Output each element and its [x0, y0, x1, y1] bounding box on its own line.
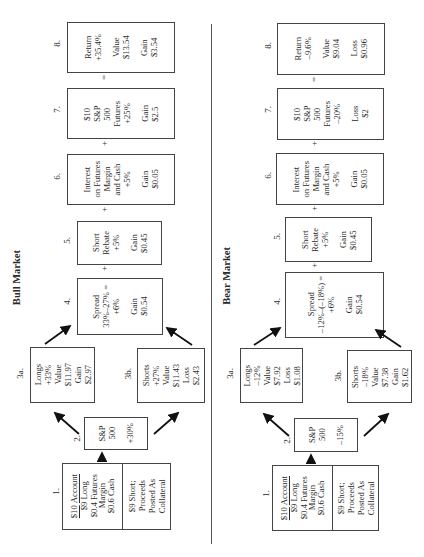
bear-step1-line: $9 Long: [289, 476, 299, 520]
arrow-icon: [167, 328, 192, 345]
bear-step3a-line: Value: [262, 365, 272, 386]
bear-step8-box: Return –9.6% Value $9.04 Loss $0.96: [277, 23, 385, 75]
bull-step3a-label: 3a.: [15, 368, 25, 379]
bear-step4-line: $0.54: [354, 276, 364, 333]
bear-step3a-line: Longs: [242, 365, 252, 386]
bear-step8-line: $0.96: [359, 37, 369, 60]
bull-step3a-line: Gain: [73, 363, 83, 386]
arrow-icon: [154, 413, 178, 434]
bear-step4-line: Spread: [306, 276, 316, 333]
bull-step1-line: $9 Short;: [127, 479, 137, 513]
bear-step5-box: Short Rebate +5% Gain $0.45: [285, 217, 372, 262]
bull-step3b-line: +27%: [151, 364, 161, 387]
bull-step2-box: S&P 500 +30%: [84, 417, 148, 450]
bull-step2-change: +30%: [125, 423, 135, 444]
bear-step3b-label: 3b.: [333, 370, 343, 381]
bull-step5-line: $0.45: [139, 231, 149, 255]
bull-step1-line: Proceeds: [137, 479, 147, 513]
bull-step3a-line: +33%: [43, 363, 53, 386]
bear-step4-line: +6%: [326, 276, 336, 333]
bull-step3a-line: Longs: [33, 363, 43, 386]
bear-step6-line: +5%: [331, 161, 341, 198]
bear-step3b-line: $7.38: [380, 366, 390, 388]
bull-step3a-line: Value: [53, 363, 63, 386]
bull-step3a-line: $2.97: [83, 363, 93, 386]
bear-plus-sign: +: [309, 263, 319, 268]
bear-step3a-line: –12%: [252, 365, 262, 386]
bear-step5-line: Short: [300, 228, 310, 252]
bear-plus-sign: +: [309, 206, 319, 211]
bear-step6-line: Margin: [311, 161, 321, 198]
bear-step7-line: $10: [292, 101, 302, 127]
bull-step3b-box: Shorts +27% Value $11.43 Loss $2.43: [137, 348, 205, 403]
bear-step6-line: Gain: [349, 161, 359, 198]
bull-step5-line: +5%: [111, 231, 121, 255]
bear-step6-line: and Cash: [321, 161, 331, 198]
bear-step7-line: –20%: [332, 101, 342, 127]
bull-step1-line: Posted As: [147, 479, 157, 513]
account-word: Account: [69, 474, 79, 503]
bull-step4-box: Spread 33%–27% = +6% Gain $0.54: [77, 278, 163, 335]
bear-step7-label: 7.: [263, 106, 273, 113]
bear-step3a-box: Longs –12% Value $7.92 Loss $1.08: [240, 348, 303, 403]
bull-step6-line: +5%: [122, 161, 132, 198]
bull-step1-line: Collateral: [157, 479, 167, 513]
bull-step4-line: Spread: [91, 285, 101, 328]
bear-step5-line: Rebate: [310, 228, 320, 252]
bull-step8-label: 8.: [52, 40, 62, 47]
bull-step7-line: $10: [82, 101, 92, 127]
bull-market-title: Bull Market: [11, 250, 22, 305]
bear-step3b-box: Shorts –18% Value $7.38 Gain $1.62: [347, 350, 412, 403]
bull-step6-line: $0.05: [150, 161, 160, 198]
bear-step2-line: S&P: [307, 425, 317, 445]
bear-step2-change: –15%: [335, 425, 345, 445]
bear-market-title: Bear Market: [221, 247, 232, 305]
bear-step3b-line: $1.62: [400, 366, 410, 388]
bear-step1-line: Collateral: [366, 481, 376, 515]
bear-step1-label: 1.: [261, 490, 271, 497]
bear-step1-line: $0.6 Cash: [316, 476, 326, 520]
bear-step5-line: $0.45: [348, 228, 358, 252]
account-amount: $10: [69, 506, 79, 519]
bear-step3a-line: $7.92: [272, 365, 282, 386]
bull-step8-line: $3.54: [149, 34, 159, 61]
bear-step8-line: Return: [293, 37, 303, 60]
arrow-icon: [254, 328, 280, 345]
bear-step5-label: 5.: [272, 233, 282, 240]
bull-step8-line: Gain: [139, 34, 149, 61]
bull-step7-line: Gain: [140, 101, 150, 127]
bull-step3b-line: $11.43: [171, 364, 181, 387]
bear-step1-line: $9 Short;: [336, 481, 346, 515]
bull-step6-line: on Futures: [92, 161, 102, 198]
bear-step5-line: +5%: [320, 228, 330, 252]
bear-step3b-line: Gain: [390, 366, 400, 388]
bear-step1-box: $10 Account $9 Long $0.4 Futures Margin …: [272, 465, 379, 531]
bull-plus-sign: +: [99, 266, 109, 271]
bull-step7-line: S&P: [92, 101, 102, 127]
account-word: Account: [279, 476, 289, 505]
bull-step3b-line: $2.43: [191, 364, 201, 387]
bear-step7-line: Loss: [350, 101, 360, 127]
bear-step6-box: Interest on Futures Margin and Cash +5% …: [276, 153, 384, 205]
bear-step1-line: Posted As: [356, 481, 366, 515]
bear-step8-line: –9.6%: [303, 37, 313, 60]
bull-step5-line: Rebate: [101, 231, 111, 255]
bear-step3b-line: Shorts: [350, 366, 360, 388]
bull-step7-line: Futures: [112, 101, 122, 127]
bear-step3a-line: $1.08: [292, 365, 302, 386]
bear-step4-box: Spread –12%–(–18%) = +6% Gain $0.54: [285, 272, 384, 338]
bull-plus-sign: +: [99, 141, 109, 146]
bear-step8-label: 8.: [263, 42, 273, 49]
bear-step7-box: $10 S&P 500 Futures –20% Loss $2: [277, 88, 384, 140]
bear-step3b-line: Value: [370, 366, 380, 388]
bull-step8-line: $13.54: [121, 34, 131, 61]
bull-step5-label: 5.: [62, 237, 72, 244]
bull-step7-box: $10 S&P 500 Futures +25% Gain $2.5: [67, 88, 175, 139]
bull-step2-label: 2.: [72, 435, 82, 442]
bear-step4-line: –12%–(–18%) =: [316, 276, 326, 333]
bull-step8-line: +35.4%: [93, 34, 103, 61]
bull-step3b-label: 3b.: [123, 368, 133, 379]
bull-step8-box: Return +35.4% Value $13.54 Gain $3.54: [67, 22, 175, 73]
arrow-icon: [264, 414, 289, 436]
bull-step6-line: Gain: [140, 161, 150, 198]
